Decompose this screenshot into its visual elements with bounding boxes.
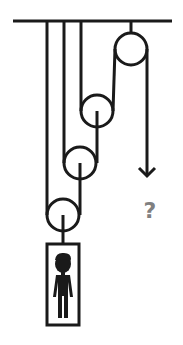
pulley-diagram [0, 0, 183, 345]
person-icon [53, 253, 73, 318]
rope-segment [113, 49, 115, 111]
question-mark-label: ? [140, 198, 160, 223]
fixed-pulley [115, 33, 147, 65]
